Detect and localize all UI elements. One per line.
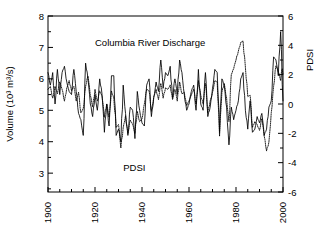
y-left-tick-label: 6 <box>39 73 44 84</box>
y-right-tick-label: -2 <box>288 128 296 139</box>
x-tick-label: 2000 <box>277 202 288 223</box>
pdsi-annotation-label: PDSI <box>123 162 145 173</box>
y-right-tick-label: 4 <box>288 40 293 51</box>
x-tick-label: 1900 <box>42 202 53 223</box>
y-left-axis-label: Volume (10³ m³/s) <box>4 66 15 142</box>
x-tick-label: 1940 <box>136 202 147 223</box>
y-right-tick-label: -4 <box>288 157 296 168</box>
y-left-tick-label: 8 <box>39 11 44 22</box>
x-tick-label: 1920 <box>89 202 100 223</box>
discharge-annotation-label: Columbia River Discharge <box>95 37 205 48</box>
y-right-tick-label: 0 <box>288 99 293 110</box>
y-left-tick-label: 5 <box>39 105 44 116</box>
y-right-axis-label: PDSI <box>304 49 315 71</box>
y-left-tick-label: 3 <box>39 168 44 179</box>
y-right-tick-label: 2 <box>288 69 293 80</box>
y-left-tick-label: 4 <box>39 136 44 147</box>
chart-svg: 190019201940196019802000345678Volume (10… <box>0 0 320 240</box>
y-right-tick-label: -6 <box>288 187 296 198</box>
y-right-tick-label: 6 <box>288 11 293 22</box>
y-left-tick-label: 7 <box>39 42 44 53</box>
x-tick-label: 1960 <box>183 202 194 223</box>
x-tick-label: 1980 <box>230 202 241 223</box>
figure-container: 190019201940196019802000345678Volume (10… <box>0 0 320 240</box>
